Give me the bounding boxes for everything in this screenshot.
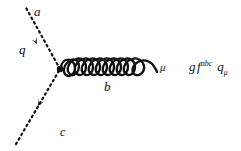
vertex-factor-formula: gfabcqμ [189, 60, 228, 77]
upper-fermion-line [25, 6, 60, 69]
label-b: b [104, 80, 111, 93]
feynman-diagram-figure: a q c b μ gfabcqμ [0, 0, 241, 151]
gluon-coil-line [61, 58, 157, 76]
label-mu: μ [160, 62, 166, 73]
lower-fermion-line [16, 69, 60, 144]
label-c: c [60, 126, 65, 138]
formula-structure-constant-indices: abc [201, 59, 213, 68]
label-a: a [34, 5, 41, 18]
upper-line-arrowhead [31, 37, 39, 45]
label-q: q [19, 43, 26, 56]
formula-coupling-g: g [189, 59, 196, 74]
interaction-vertex-dot [57, 66, 63, 72]
formula-momentum-index-mu: μ [224, 68, 228, 77]
